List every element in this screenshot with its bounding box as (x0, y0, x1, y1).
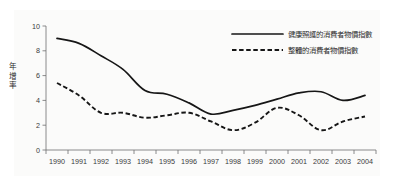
x-tick-label: 1991 (71, 157, 87, 166)
x-tick-label: 1992 (93, 157, 109, 166)
x-tick-label: 2001 (291, 157, 307, 166)
chart-figure: 年 增 率 0246810 19901991199219931994199519… (0, 0, 394, 189)
y-axis-ticks: 0246810 (32, 22, 46, 155)
y-tick-label: 4 (36, 96, 40, 105)
x-tick-label: 2000 (269, 157, 285, 166)
x-tick-label: 1998 (225, 157, 241, 166)
x-tick-label: 1999 (247, 157, 263, 166)
series-line-1 (57, 83, 365, 130)
legend-label-0: 健康照護的消費者物價指數 (288, 30, 373, 39)
chart-legend: 健康照護的消費者物價指數 整體的消費者物價指數 (232, 30, 373, 55)
x-tick-label: 1994 (137, 157, 153, 166)
x-tick-label: 2003 (335, 157, 351, 166)
x-tick-label: 1997 (203, 157, 219, 166)
x-tick-label: 2002 (313, 157, 329, 166)
y-tick-label: 6 (36, 71, 40, 80)
axes (46, 26, 376, 150)
x-tick-label: 2004 (357, 157, 373, 166)
x-axis-ticks: 1990199119921993199419951996199719981999… (46, 150, 376, 166)
x-tick-label: 1990 (49, 157, 65, 166)
x-tick-label: 1993 (115, 157, 131, 166)
y-tick-label: 10 (32, 22, 40, 31)
line-chart: 0246810 19901991199219931994199519961997… (0, 0, 394, 189)
y-tick-label: 8 (36, 46, 40, 55)
y-tick-label: 0 (36, 146, 40, 155)
x-tick-label: 1995 (159, 157, 175, 166)
x-tick-label: 1996 (181, 157, 197, 166)
legend-label-1: 整體的消費者物價指數 (288, 46, 359, 55)
y-tick-label: 2 (36, 121, 40, 130)
